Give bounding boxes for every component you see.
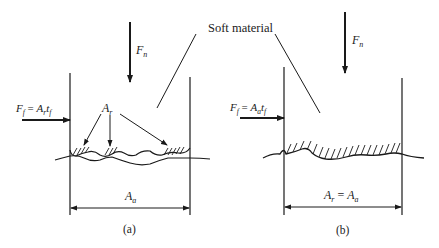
lower-surface-a <box>55 156 210 165</box>
asperity-pointer-3 <box>120 114 167 145</box>
panel-b: Fn Ff = Aatf Ar = Aa (b) <box>229 12 424 237</box>
asperity-pointer-1 <box>84 114 101 145</box>
normal-force-label-a: Fn <box>135 43 147 59</box>
area-equality-label-b: Ar = Aa <box>323 188 359 204</box>
soft-material-leader-b <box>275 34 320 113</box>
conformed-surface-b <box>263 149 424 160</box>
soft-material-label: Soft material <box>208 21 273 35</box>
apparent-area-label-a: Aa <box>124 189 136 205</box>
full-contact-hatching-b <box>287 141 400 159</box>
panel-caption-b: (b) <box>336 224 350 237</box>
friction-force-label-a: Ff = Artf <box>15 102 52 117</box>
friction-force-label-b: Ff = Aatf <box>229 101 267 116</box>
friction-contact-diagram: Soft material Fn Ff = Artf Ar Aa (a) <box>0 0 439 248</box>
panel-a: Fn Ff = Artf Ar Aa (a) <box>15 22 210 236</box>
real-contact-label-a: Ar <box>101 101 113 117</box>
normal-force-label-b: Fn <box>351 33 363 49</box>
panel-caption-a: (a) <box>123 223 136 236</box>
